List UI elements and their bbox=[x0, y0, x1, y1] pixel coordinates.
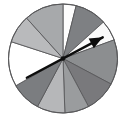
spinner-wheel-svg[interactable] bbox=[0, 0, 126, 116]
spinner-pivot[interactable] bbox=[61, 56, 65, 60]
spinner-figure bbox=[0, 0, 126, 116]
